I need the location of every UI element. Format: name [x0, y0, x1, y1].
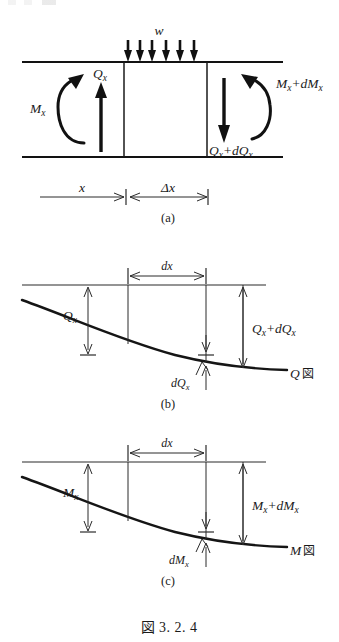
label-right-moment: Mx+dMx — [275, 76, 324, 93]
label-dqx: dQx — [171, 376, 190, 392]
dimension-line-a — [40, 189, 208, 205]
label-dim-x: x — [78, 180, 85, 195]
panel-c: dx Mx Mx+dMx — [22, 436, 315, 588]
ordinate-arrow-qx-dqx — [239, 287, 247, 368]
distributed-load-arrows — [124, 40, 198, 62]
load-arrow-5 — [176, 40, 184, 62]
panel-b: dx Qx Qx+dQx — [22, 259, 314, 411]
label-mx-c: Mx — [62, 485, 79, 502]
panel-label-a: (a) — [161, 211, 175, 225]
shear-curve — [22, 300, 287, 370]
load-arrow-6 — [190, 40, 198, 62]
label-dim-delta-x: Δx — [160, 180, 175, 195]
load-arrow-1 — [124, 40, 132, 62]
ordinate-arrow-mx — [80, 464, 96, 532]
right-moment-arrow — [241, 74, 270, 139]
label-q-diagram: Q図 — [290, 366, 314, 381]
ordinate-arrow-qx — [80, 287, 96, 355]
panel-label-c: (c) — [161, 574, 175, 588]
load-arrow-4 — [162, 40, 170, 62]
label-qx-dqx: Qx+dQx — [252, 321, 297, 338]
label-dx-c: dx — [161, 436, 173, 450]
scan-artifact — [8, 0, 72, 5]
figure-svg: w — [0, 0, 339, 642]
panel-label-b: (b) — [161, 397, 176, 411]
label-right-shear: Qx+dQx — [209, 143, 254, 160]
load-arrow-3 — [148, 40, 156, 62]
figure-container: w — [0, 0, 339, 642]
left-moment-arrow — [58, 74, 84, 143]
label-mx-dmx: Mx+dMx — [251, 498, 300, 515]
panel-a: w — [22, 23, 324, 225]
label-dx-b: dx — [161, 259, 173, 273]
label-left-moment: Mx — [29, 101, 46, 118]
figure-caption: 図3. 2. 4 — [141, 619, 198, 635]
ordinate-arrow-mx-dmx — [239, 464, 247, 545]
label-dmx: dMx — [169, 553, 189, 569]
moment-curve-c — [22, 477, 287, 547]
label-distributed-load: w — [154, 23, 163, 38]
right-shear-arrow — [218, 78, 230, 143]
load-arrow-2 — [136, 40, 144, 62]
label-qx-b: Qx — [63, 308, 78, 325]
left-shear-arrow — [95, 82, 107, 152]
label-left-shear: Qx — [93, 66, 108, 83]
label-m-diagram: M図 — [289, 543, 315, 558]
